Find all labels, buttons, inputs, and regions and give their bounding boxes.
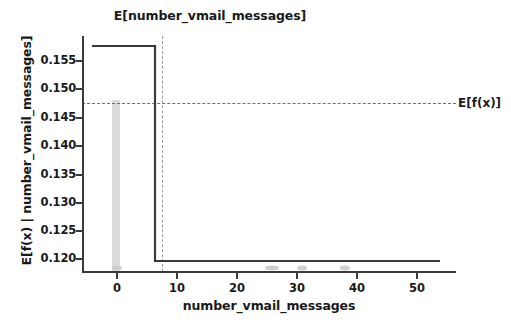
y-tick-mark (76, 230, 83, 232)
chart-title: E[number_vmail_messages] (0, 8, 420, 23)
y-tick-label-text: 0.135 (34, 167, 76, 181)
y-tick-label-text: 0.120 (34, 251, 76, 265)
y-axis-spine (82, 36, 84, 273)
y-tick-label: 0.135 (28, 167, 76, 181)
y-tick-label: 0.145 (28, 110, 76, 124)
y-tick-label-text: 0.150 (34, 81, 76, 95)
y-tick-mark (76, 202, 83, 204)
x-tick-mark (416, 272, 418, 279)
y-tick-mark (76, 145, 83, 147)
x-tick-label: 10 (157, 281, 197, 297)
y-tick-label-text: 0.130 (34, 195, 76, 209)
y-tick-label: 0.125 (28, 223, 76, 237)
x-tick-mark (356, 272, 358, 279)
y-tick-mark (76, 88, 83, 90)
x-tick-label: 40 (337, 281, 377, 297)
y-tick-label-text: 0.125 (34, 223, 76, 237)
y-tick-mark (76, 174, 83, 176)
y-tick-label: 0.130 (28, 195, 76, 209)
x-tick-label-text: 40 (337, 281, 377, 295)
y-tick-label: 0.140 (28, 138, 76, 152)
y-tick-label-text: 0.155 (34, 53, 76, 67)
expected-value-hline (82, 103, 456, 104)
expected-value-label: E[f(x)] (458, 96, 501, 110)
y-tick-label: 0.155 (28, 53, 76, 67)
y-tick-mark (76, 117, 83, 119)
x-tick-mark (296, 272, 298, 279)
y-axis-label: E[f(x) | number_vmail_messages] (19, 26, 34, 276)
x-axis-label: number_vmail_messages (82, 298, 456, 313)
x-tick-label: 0 (97, 281, 137, 297)
x-axis-spine (82, 271, 456, 273)
y-tick-label-text: 0.145 (34, 110, 76, 124)
expected-feature-vline (162, 36, 163, 272)
y-tick-mark (76, 60, 83, 62)
x-tick-label: 20 (217, 281, 257, 297)
y-tick-label: 0.150 (28, 81, 76, 95)
x-tick-label: 50 (397, 281, 437, 297)
x-tick-mark (236, 272, 238, 279)
y-tick-label: 0.120 (28, 251, 76, 265)
x-tick-mark (176, 272, 178, 279)
x-tick-label-text: 0 (97, 281, 137, 295)
x-tick-label-text: 10 (157, 281, 197, 295)
y-tick-mark (76, 258, 83, 260)
x-tick-label-text: 20 (217, 281, 257, 295)
x-tick-label-text: 30 (277, 281, 317, 295)
feature-distribution-bar (112, 100, 120, 272)
x-tick-label: 30 (277, 281, 317, 297)
y-tick-label-text: 0.140 (34, 138, 76, 152)
chart-figure: E[number_vmail_messages] 0.155 0.150 0.1… (0, 0, 511, 332)
x-tick-label-text: 50 (397, 281, 437, 295)
x-tick-mark (116, 272, 118, 279)
plot-area (82, 36, 455, 272)
